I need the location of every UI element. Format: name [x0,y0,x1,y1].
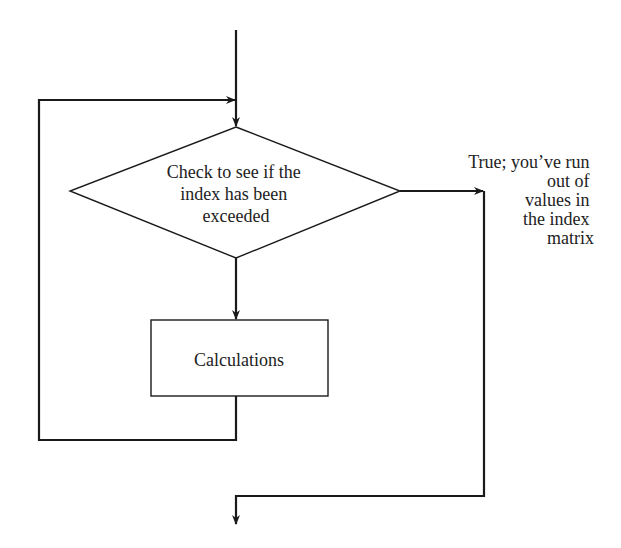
process-label: Calculations [194,350,284,370]
true-branch-label: True; you’ve run out of values in the in… [468,152,594,248]
decision-line-1: Check to see if the [167,162,301,182]
true-line-4: the index [523,209,589,229]
decision-line-2: index has been [180,184,287,204]
flowchart: Check to see if the index has been excee… [0,0,621,548]
true-line-2: out of [547,171,590,191]
true-line-3: values in [525,190,590,210]
decision-line-3: exceeded [203,206,270,226]
true-line-5: matrix [547,228,594,248]
true-line-1: True; you’ve run [468,152,589,172]
